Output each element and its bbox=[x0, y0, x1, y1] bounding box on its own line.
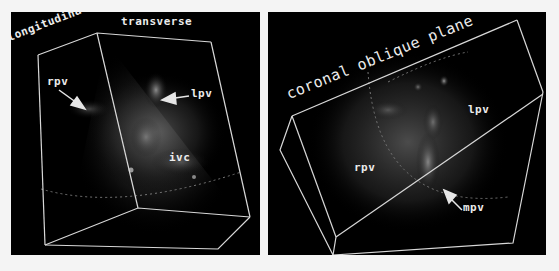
ultrasound-panel-longitudinal-transverse: longitudinal transverse rpv lpv ivc bbox=[11, 12, 260, 255]
volume-render-left bbox=[11, 12, 260, 255]
annotation-lpv: lpv bbox=[191, 88, 212, 99]
annotation-rpv: rpv bbox=[354, 162, 375, 173]
plane-label-transverse: transverse bbox=[121, 16, 192, 27]
annotation-lpv: lpv bbox=[468, 104, 489, 115]
annotation-ivc: ivc bbox=[169, 152, 190, 163]
annotation-rpv: rpv bbox=[47, 76, 68, 87]
annotation-mpv: mpv bbox=[463, 202, 484, 213]
ultrasound-panel-coronal-oblique: coronal oblique plane lpv rpv mpv bbox=[268, 12, 546, 255]
